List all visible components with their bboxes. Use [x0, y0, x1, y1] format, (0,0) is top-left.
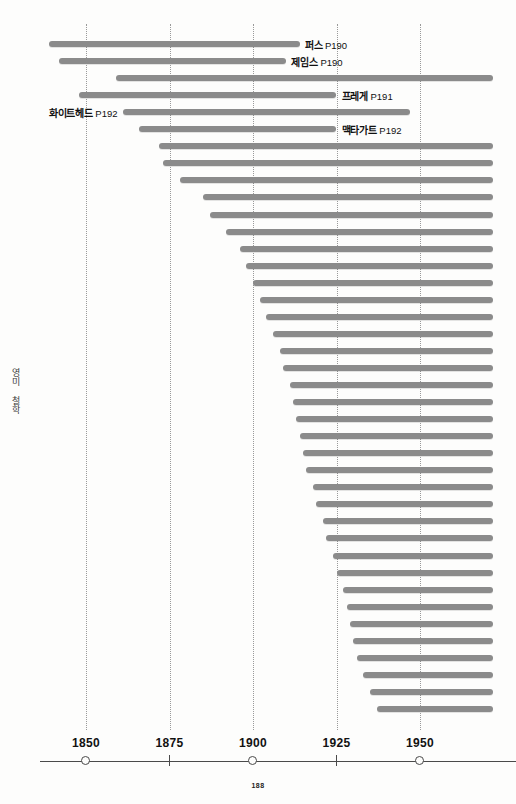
timeline-bar	[343, 587, 493, 593]
timeline-bar-label: 화이트헤드 P192	[49, 105, 118, 120]
axis-tick-label-1850: 1850	[72, 736, 100, 750]
timeline-bar	[290, 382, 494, 388]
timeline-bar	[123, 109, 410, 115]
bar-label-page-ref: P192	[95, 108, 117, 119]
timeline-bar	[180, 177, 494, 183]
timeline-bar	[333, 553, 493, 559]
timeline-bar	[313, 484, 493, 490]
timeline-bar	[357, 655, 494, 661]
page-canvas: 영미 철학 퍼스 P190제임스 P190프레게 P191화이트헤드 P192맥…	[0, 0, 516, 804]
timeline-bar	[203, 194, 494, 200]
timeline-bar	[303, 450, 493, 456]
axis-tick-label-1925: 1925	[323, 736, 351, 750]
axis-tick-marker-1850	[81, 756, 90, 765]
timeline-bar	[306, 467, 493, 473]
timeline-bar	[337, 570, 494, 576]
timeline-bar	[240, 246, 494, 252]
timeline-bar	[363, 672, 493, 678]
timeline-bar	[246, 263, 493, 269]
timeline-bar	[273, 331, 493, 337]
timeline-bar	[377, 706, 494, 712]
timeline-bar	[253, 280, 493, 286]
timeline-bar	[260, 297, 494, 303]
axis-tick-marker-1875	[169, 755, 170, 766]
timeline-bar	[326, 535, 493, 541]
axis-line	[40, 761, 516, 762]
bar-label-page-ref: P190	[320, 57, 342, 68]
timeline-bar-label: 프레게 P191	[342, 88, 393, 103]
bar-label-page-ref: P192	[379, 125, 401, 136]
timeline-bar	[159, 143, 493, 149]
timeline-bar-label: 제임스 P190	[291, 54, 342, 69]
bar-label-name: 제임스	[291, 57, 317, 68]
bar-label-name: 프레게	[342, 91, 368, 102]
axis-tick-marker-1925	[336, 755, 337, 766]
timeline-bar	[350, 621, 494, 627]
timeline-bar	[347, 604, 494, 610]
timeline-bar-label: 맥타가트 P192	[342, 122, 402, 137]
axis-tick-label-1950: 1950	[406, 736, 434, 750]
gridline-1850	[86, 24, 87, 730]
page-number: 188	[0, 782, 516, 789]
gridline-1925	[337, 24, 338, 730]
x-axis: 18501875190019251950	[0, 730, 516, 780]
timeline-bar	[296, 416, 493, 422]
bar-label-name: 화이트헤드	[49, 108, 93, 119]
axis-tick-label-1875: 1875	[156, 736, 184, 750]
timeline-bar	[139, 126, 336, 132]
timeline-bar	[116, 75, 493, 81]
timeline-bar	[210, 212, 494, 218]
bar-label-name: 퍼스	[305, 40, 323, 51]
timeline-bar	[79, 92, 336, 98]
timeline-bar	[49, 41, 300, 47]
timeline-plot-area: 퍼스 P190제임스 P190프레게 P191화이트헤드 P192맥타가트 P1…	[0, 0, 516, 730]
bar-label-page-ref: P190	[325, 40, 347, 51]
timeline-bar	[266, 314, 493, 320]
timeline-bar	[370, 689, 494, 695]
timeline-bar	[59, 58, 286, 64]
bar-label-name: 맥타가트	[342, 125, 377, 136]
timeline-bar	[280, 348, 494, 354]
timeline-bar-label: 퍼스 P190	[305, 37, 347, 52]
bar-label-page-ref: P191	[371, 91, 393, 102]
timeline-bar	[316, 501, 493, 507]
timeline-bar	[293, 399, 493, 405]
timeline-bar	[323, 518, 493, 524]
axis-tick-marker-1900	[248, 756, 257, 765]
timeline-bar	[353, 638, 493, 644]
axis-tick-label-1900: 1900	[239, 736, 267, 750]
timeline-bar	[300, 433, 494, 439]
timeline-bar	[283, 365, 493, 371]
timeline-bar	[163, 160, 494, 166]
axis-tick-marker-1950	[415, 756, 424, 765]
timeline-bar	[226, 229, 493, 235]
